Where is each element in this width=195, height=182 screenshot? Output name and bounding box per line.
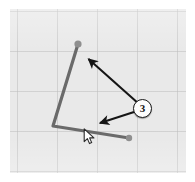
mouse-pointer-icon: [83, 128, 97, 146]
polyline-node-top[interactable]: [74, 40, 81, 47]
screenshot-root: 3: [0, 0, 195, 182]
polyline-node-bottom-right[interactable]: [126, 135, 132, 141]
step-badge: 3: [133, 99, 152, 118]
polyline-shape[interactable]: [53, 40, 132, 141]
annotation-arrows: [89, 59, 140, 123]
arrow-to-bottom-segment-icon: [100, 112, 134, 123]
canvas-artwork-layer: [0, 0, 195, 182]
step-badge-label: 3: [140, 103, 146, 114]
arrow-to-top-node-icon: [89, 59, 140, 104]
polyline-path[interactable]: [53, 44, 129, 138]
